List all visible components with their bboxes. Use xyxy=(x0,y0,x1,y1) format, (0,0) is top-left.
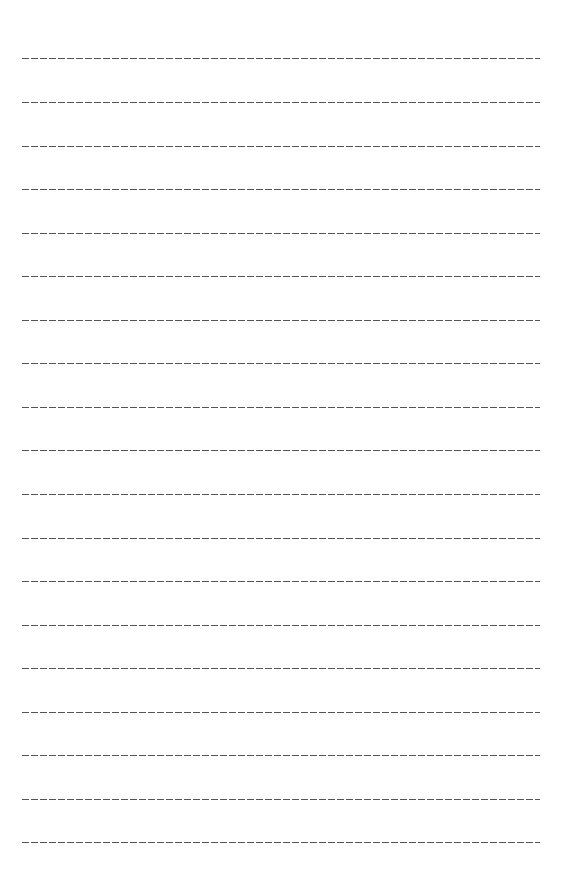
dashed-writing-line xyxy=(22,58,540,59)
dashed-writing-line xyxy=(22,755,540,756)
dashed-writing-line xyxy=(22,102,540,103)
dashed-writing-line xyxy=(22,450,540,451)
dashed-writing-line xyxy=(22,494,540,495)
dashed-writing-line xyxy=(22,320,540,321)
dashed-writing-line xyxy=(22,625,540,626)
dashed-writing-line xyxy=(22,668,540,669)
dashed-writing-line xyxy=(22,233,540,234)
dashed-writing-line xyxy=(22,189,540,190)
dashed-writing-line xyxy=(22,407,540,408)
dashed-writing-line xyxy=(22,276,540,277)
lined-page xyxy=(0,0,564,878)
dashed-writing-line xyxy=(22,799,540,800)
dashed-writing-line xyxy=(22,363,540,364)
dashed-writing-line xyxy=(22,842,540,843)
dashed-writing-line xyxy=(22,581,540,582)
dashed-writing-line xyxy=(22,712,540,713)
dashed-writing-line xyxy=(22,538,540,539)
dashed-writing-line xyxy=(22,146,540,147)
